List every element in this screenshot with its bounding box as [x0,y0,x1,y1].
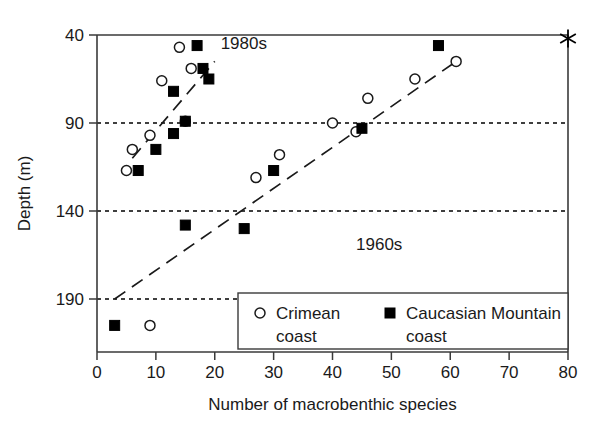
chart-canvas: 010203040506070804090140190Number of mac… [0,0,597,441]
annotation-1980s: 1980s [221,34,267,53]
trend-line-1980s [132,61,214,158]
data-point-caucasian [204,74,214,84]
legend-label-line1: Caucasian Mountain [406,304,561,323]
x-tick-label: 70 [500,363,519,382]
y-tick-label: 190 [56,290,84,309]
x-tick-label: 20 [205,363,224,382]
annotation-1960s: 1960s [356,235,402,254]
annotations-group: 1980s1960s [221,34,403,254]
data-point-crimean [145,320,155,330]
x-tick-label: 10 [146,363,165,382]
trend-line-1960s [115,61,456,299]
data-point-crimean [145,130,155,140]
legend-label-line1: Crimean [276,304,340,323]
data-point-caucasian [192,41,202,51]
data-point-crimean [363,93,373,103]
y-tick-label: 90 [65,114,84,133]
data-point-caucasian [133,166,143,176]
asterisk-icon [560,30,576,48]
data-point-crimean [186,63,196,73]
gridlines-group [97,123,568,299]
legend-label-line2: coast [406,327,447,346]
data-point-caucasian [357,123,367,133]
data-point-crimean [251,173,261,183]
x-tick-label: 80 [559,363,578,382]
x-tick-label: 0 [92,363,101,382]
special-markers-group [560,30,576,48]
data-point-caucasian [169,86,179,96]
data-point-caucasian [198,63,208,73]
data-point-crimean [451,56,461,66]
data-point-crimean [127,144,137,154]
data-point-caucasian [110,320,120,330]
data-point-caucasian [239,224,249,234]
x-axis-title: Number of macrobenthic species [208,395,457,414]
legend-marker-filled-square [385,308,395,318]
data-point-crimean [174,42,184,52]
x-tick-label: 60 [441,363,460,382]
data-point-crimean [121,166,131,176]
legend-marker-open-circle [255,308,265,318]
data-points-group [110,41,461,331]
x-tick-label: 30 [264,363,283,382]
data-point-caucasian [180,220,190,230]
y-tick-label: 40 [65,26,84,45]
legend-label-line2: coast [276,327,317,346]
legend-group: CrimeancoastCaucasian Mountaincoast [238,293,568,349]
tick-labels-group: 010203040506070804090140190Number of mac… [15,26,577,414]
data-point-crimean [410,74,420,84]
data-point-crimean [328,118,338,128]
data-point-caucasian [269,166,279,176]
data-point-caucasian [433,41,443,51]
data-point-caucasian [151,144,161,154]
x-tick-label: 50 [382,363,401,382]
data-point-caucasian [180,116,190,126]
trend-lines-group [115,61,456,299]
y-tick-label: 140 [56,202,84,221]
data-point-crimean [157,76,167,86]
data-point-crimean [275,150,285,160]
scatter-plot-figure: 010203040506070804090140190Number of mac… [0,0,597,441]
y-axis-title: Depth (m) [15,156,34,232]
data-point-caucasian [169,129,179,139]
x-tick-label: 40 [323,363,342,382]
